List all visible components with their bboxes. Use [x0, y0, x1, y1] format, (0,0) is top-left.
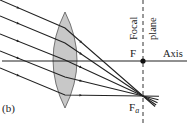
off-axis-focal-point-label: Fa [129, 101, 139, 115]
focal-point-label: F [130, 47, 136, 59]
ray-3 [0, 34, 158, 103]
focal-point-dot [140, 58, 145, 63]
subscript: a [135, 106, 139, 115]
focal-plane-label-line2: plane [147, 17, 158, 40]
panel-label: (b) [2, 102, 15, 115]
axis-label: Axis [163, 48, 183, 59]
focal-plane-label-line1: Focal [128, 17, 139, 40]
lens-focal-plane-diagram: Focal plane F Axis Fa (b) [0, 0, 187, 123]
ray-arrow-icon [79, 94, 82, 97]
focal-points [140, 58, 145, 63]
